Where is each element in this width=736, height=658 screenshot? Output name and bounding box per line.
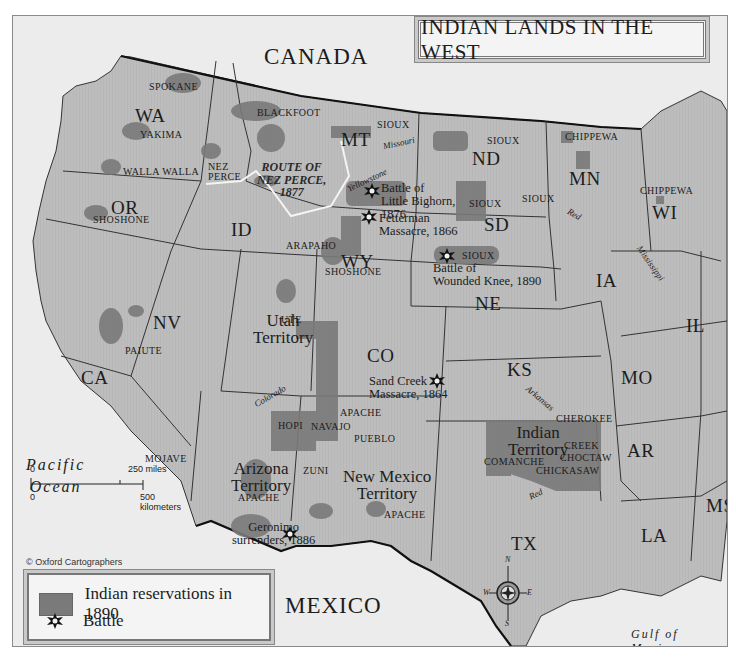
label-sand-creek-massacre: Sand Creek Massacre, 1864 [369, 375, 447, 401]
label-canada: CANADA [264, 45, 368, 68]
label-tribe-yakima: YAKIMA [140, 130, 182, 140]
label-tribe-cherokee: CHEROKEE [556, 414, 613, 424]
legend: Indian reservations in 1890 Battle [27, 573, 271, 641]
label-state-ms: MS [706, 496, 728, 515]
label-state-la: LA [641, 526, 667, 545]
label-state-mo: MO [621, 368, 653, 387]
label-tribe-sioux-nd: SIOUX [487, 136, 520, 146]
scale-km-zero: 0 [30, 492, 35, 502]
label-tribe-nez-perce: NEZ PERCE [208, 162, 241, 182]
label-state-ia: IA [596, 271, 617, 290]
label-fetterman-massacre: Fetterman Massacre, 1866 [379, 212, 457, 238]
label-state-co: CO [367, 346, 394, 365]
label-state-ks: KS [507, 360, 532, 379]
label-state-ca: CA [81, 368, 108, 387]
label-state-mt: MT [341, 130, 371, 149]
label-state-mn: MN [569, 169, 601, 188]
label-wounded-knee: Battle of Wounded Knee, 1890 [433, 262, 541, 288]
label-tribe-blackfoot: BLACKFOOT [257, 108, 321, 118]
scale-miles-zero: 0 [30, 464, 35, 474]
scale-miles-label: 250 miles [128, 464, 167, 474]
label-tribe-chippewa-wi: CHIPPEWA [640, 186, 693, 196]
label-tribe-sioux-mt: SIOUX [377, 120, 410, 130]
label-tribe-ute: UTE [281, 315, 302, 325]
compass-icon [483, 556, 533, 628]
compass-w: W [483, 589, 490, 597]
label-tribe-chippewa-mn: CHIPPEWA [565, 132, 618, 142]
label-tribe-sioux-sd2: SIOUX [522, 194, 555, 204]
compass-e: E [527, 589, 532, 597]
label-state-id: ID [231, 220, 252, 239]
label-tribe-chickasaw: CHICKASAW [536, 466, 599, 476]
label-nez-perce-route: ROUTE OF NEZ PERCE, 1877 [257, 161, 326, 199]
compass-n: N [505, 556, 510, 564]
map-base [13, 16, 727, 646]
label-state-nd: ND [472, 149, 500, 168]
label-tribe-walla-walla: WALLA WALLA [123, 167, 199, 177]
compass-s: S [505, 620, 509, 628]
label-gulf-of-mexico: Gulf of Mexico [631, 627, 679, 647]
scale-km-label: 500 kilometers [140, 492, 186, 512]
battle-icon [39, 612, 71, 630]
label-state-sd: SD [484, 215, 509, 234]
label-tribe-apache-az: APACHE [238, 493, 280, 503]
label-new-mexico-territory: New Mexico Territory [343, 468, 431, 502]
label-tribe-creek: CREEK [564, 441, 599, 451]
label-mexico: MEXICO [285, 594, 382, 617]
label-tribe-shoshone-or: SHOSHONE [93, 215, 150, 225]
legend-item-battle: Battle [39, 611, 124, 631]
label-tribe-shoshone-wy: SHOSHONE [325, 267, 382, 277]
label-tribe-zuni: ZUNI [303, 466, 328, 476]
label-tribe-sioux-sd1: SIOUX [469, 199, 502, 209]
label-state-il: IL [686, 316, 705, 335]
compass-rose: N S W E [483, 556, 533, 628]
label-tribe-pueblo: PUEBLO [354, 434, 395, 444]
scale-bar: 0 250 miles 0 500 kilometers [16, 456, 186, 516]
label-arizona-territory: Arizona Territory [231, 460, 291, 494]
label-tribe-hopi: HOPI [278, 421, 303, 431]
map-title: INDIAN LANDS IN THE WEST [421, 15, 703, 65]
label-tribe-spokane: SPOKANE [149, 82, 198, 92]
label-tribe-sioux-sd3: SIOUX [462, 251, 495, 261]
map-frame: CANADA MEXICO Pacific Ocean Gulf of Mexi… [12, 15, 728, 647]
label-geronimo-surrenders: Geronimo surrenders, 1886 [232, 521, 315, 547]
label-state-nv: NV [153, 313, 181, 332]
label-tribe-paiute: PAIUTE [125, 346, 162, 356]
label-tribe-navajo: NAVAJO [311, 422, 351, 432]
label-tribe-apache-nm2: APACHE [384, 510, 426, 520]
label-state-tx: TX [511, 534, 537, 553]
label-state-ar: AR [627, 441, 654, 460]
label-tribe-comanche: COMANCHE [484, 457, 544, 467]
label-state-wi: WI [652, 203, 677, 222]
label-state-wa: WA [135, 106, 166, 125]
label-tribe-choctaw: CHOCTAW [560, 453, 612, 463]
label-tribe-apache-nm1: APACHE [340, 408, 382, 418]
map-title-box: INDIAN LANDS IN THE WEST [418, 20, 706, 59]
label-state-ne: NE [475, 294, 501, 313]
label-tribe-arapaho: ARAPAHO [286, 241, 336, 251]
credit-text: © Oxford Cartographers [26, 557, 122, 567]
